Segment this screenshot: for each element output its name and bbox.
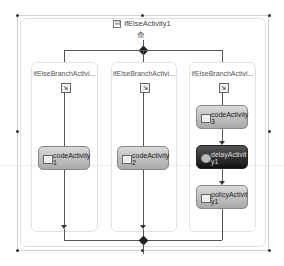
policy-icon	[201, 194, 211, 203]
code-activity-3[interactable]: codeActivity3	[196, 105, 248, 129]
collapse-icon[interactable]: ⊟	[113, 20, 121, 28]
connector	[222, 50, 223, 62]
branch-icon: ⇲	[140, 83, 150, 93]
connector	[222, 93, 223, 105]
branch-label: ifElseBranchActivi...	[190, 70, 255, 77]
resize-handle-top-left[interactable]	[16, 14, 19, 17]
resize-handle-right[interactable]	[268, 130, 271, 133]
connector	[222, 209, 223, 240]
branch-label: ifElseBranchActivi...	[112, 70, 176, 77]
code-icon	[201, 114, 211, 123]
activity-label: codeActivity	[132, 152, 169, 159]
resize-handle-bottom-left[interactable]	[16, 249, 19, 252]
policy-activity-1[interactable]: policyActivity1	[196, 185, 248, 209]
activity-label: codeActivity	[211, 111, 248, 118]
ifelse-title-text: ifElseActivity1	[124, 19, 170, 28]
connector	[143, 50, 144, 62]
connector	[64, 170, 65, 227]
resize-handle-top-right[interactable]	[268, 14, 271, 17]
resize-handle-left[interactable]	[16, 130, 19, 133]
activity-label-2: 2	[132, 159, 136, 166]
activity-label-2: 1	[53, 159, 57, 166]
code-activity-1[interactable]: codeActivity1	[38, 146, 90, 170]
resize-handle-bottom-right[interactable]	[268, 249, 271, 252]
ifelse-icon: ⟰	[137, 30, 145, 40]
ifelse-title: ⊟ifElseActivity1	[0, 19, 284, 28]
activity-label-2: y1	[211, 198, 218, 205]
branch-icon: ⇲	[61, 83, 71, 93]
connector	[64, 229, 65, 240]
resize-handle-top[interactable]	[141, 14, 144, 17]
connector	[64, 93, 65, 146]
branch-label: ifElseBranchActivi...	[32, 70, 97, 77]
connector	[143, 244, 144, 254]
activity-label: delayActivit	[211, 151, 246, 158]
connector	[143, 93, 144, 146]
activity-label-2: 3	[211, 118, 215, 125]
activity-label-2: y1	[211, 158, 218, 165]
code-activity-2[interactable]: codeActivity2	[117, 146, 169, 170]
code-icon	[122, 155, 132, 164]
activity-label: codeActivity	[53, 152, 90, 159]
branch-icon: ⇲	[219, 83, 229, 93]
clock-icon	[201, 154, 211, 163]
delay-activity-1[interactable]: delayActivity1	[196, 145, 248, 169]
activity-label: policyActivit	[211, 191, 248, 198]
code-icon	[43, 155, 53, 164]
connector	[143, 170, 144, 227]
connector	[64, 50, 65, 62]
